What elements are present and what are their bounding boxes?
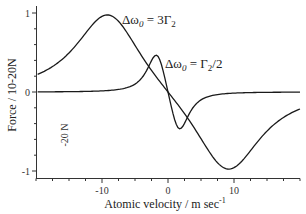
- curve2-tail: /2: [212, 56, 222, 71]
- y-ticks: [32, 13, 37, 171]
- tick-labels: 10-1-10010: [22, 8, 239, 197]
- curve1-gsub: 2: [171, 19, 176, 29]
- curve1-eq: = 3Γ: [143, 12, 171, 27]
- x-tick-label: -10: [95, 185, 108, 196]
- y-tick-label: 0: [25, 87, 30, 98]
- curve1-label: Δω0 = 3Γ2: [122, 12, 176, 29]
- y-tick-label: -1: [22, 166, 30, 177]
- axes: [32, 6, 300, 183]
- x-tick-label: 10: [229, 185, 239, 196]
- curve1-delta: Δω: [122, 12, 139, 27]
- stray-note: -20 N: [59, 123, 70, 146]
- curve2-delta: Δω: [165, 56, 182, 71]
- curve2-eq: = Γ: [186, 56, 208, 71]
- x-axis-title-main: Atomic velocity / m sec: [104, 197, 219, 211]
- curve2-label: Δω0 = Γ2/2: [165, 56, 222, 73]
- x-ticks: [36, 179, 300, 184]
- x-axis-title: Atomic velocity / m sec-1: [104, 196, 225, 211]
- force-velocity-chart: 10-1-10010 Force / 10-20N Atomic velocit…: [0, 0, 306, 214]
- curves: [38, 15, 300, 169]
- x-axis-title-sup: -1: [219, 196, 226, 205]
- y-axis-title: Force / 10-20N: [5, 58, 19, 132]
- x-tick-label: 0: [166, 185, 171, 196]
- y-tick-label: 1: [25, 8, 30, 19]
